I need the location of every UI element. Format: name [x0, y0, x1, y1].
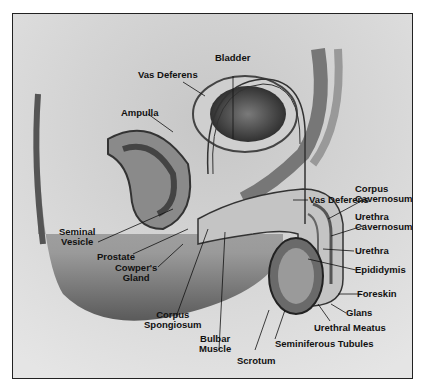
label-bulbar-muscle: BulbarMuscle: [199, 334, 231, 354]
label-vas-deferens-top: Vas Deferens: [138, 70, 198, 80]
diagram-frame: Bladder Vas Deferens Ampulla Vas Deferen…: [12, 13, 413, 379]
label-epididymis: Epididymis: [355, 265, 406, 275]
label-ampulla: Ampulla: [121, 108, 158, 118]
label-cowpers-gland: Cowper'sGland: [115, 263, 157, 283]
label-bladder: Bladder: [215, 53, 250, 63]
label-urethra-cavernosum: UrethraCavernosum: [355, 212, 413, 232]
label-seminal-vesicle: SeminalVesicle: [59, 227, 95, 247]
label-scrotum: Scrotum: [237, 356, 276, 366]
label-foreskin: Foreskin: [357, 289, 397, 299]
label-urethral-meatus: Urethral Meatus: [314, 323, 386, 333]
label-prostate: Prostate: [97, 252, 135, 262]
label-urethra: Urethra: [355, 246, 389, 256]
label-seminiferous-tubules: Seminiferous Tubules: [275, 339, 374, 349]
label-corpus-spongiosum: CorpusSpongiosum: [144, 310, 202, 330]
label-glans: Glans: [346, 308, 372, 318]
label-corpus-cavernosum: CorpusCavernosum: [355, 184, 413, 204]
